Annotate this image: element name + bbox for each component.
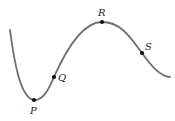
point-s-label: S: [145, 41, 152, 52]
point-r-dot: [100, 20, 104, 24]
point-q-label: Q: [58, 72, 66, 83]
curve-diagram: P Q R S: [0, 0, 175, 121]
point-p-label: P: [29, 105, 37, 116]
point-r-label: R: [97, 7, 106, 18]
point-p-dot: [32, 98, 36, 102]
curve: [10, 22, 170, 100]
point-q-dot: [52, 75, 56, 79]
point-s-dot: [140, 51, 144, 55]
